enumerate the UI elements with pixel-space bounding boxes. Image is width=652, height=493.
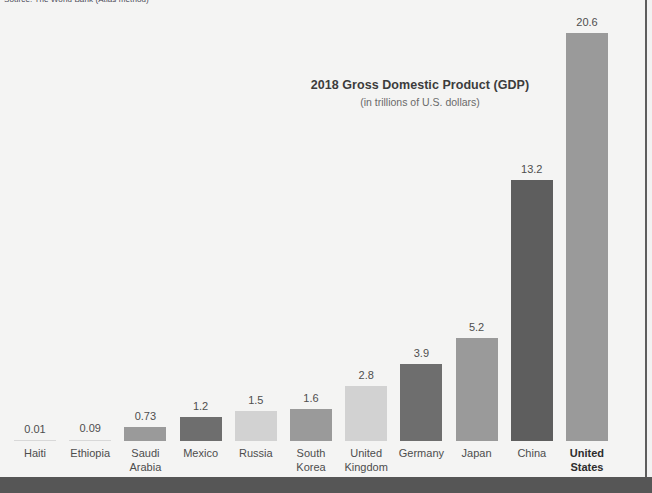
bar-value-label: 1.6	[303, 392, 318, 405]
bar-slot: 2.8	[339, 0, 394, 441]
bar-value-label: 1.5	[248, 394, 263, 407]
bar-value-label: 5.2	[469, 321, 484, 334]
bar-slot: 1.2	[173, 0, 228, 441]
x-axis-label: Mexico	[173, 447, 228, 461]
bar-value-label: 0.01	[24, 423, 45, 436]
x-axis-label: Russia	[228, 447, 283, 461]
bar[interactable]	[290, 409, 332, 441]
bar-value-label: 2.8	[359, 369, 374, 382]
x-axis-label: China	[504, 447, 559, 461]
gdp-infographic: Source: The World Bank (Atlas method) 20…	[0, 0, 652, 493]
bar[interactable]	[14, 440, 56, 441]
bar-value-label: 0.73	[135, 410, 156, 423]
x-axis-label: UnitedKingdom	[339, 447, 394, 474]
bar-value-label: 3.9	[414, 347, 429, 360]
bar-value-label: 13.2	[521, 163, 542, 176]
bar-value-label: 20.6	[576, 16, 597, 29]
bar-slot: 3.9	[394, 0, 449, 441]
bar[interactable]	[180, 417, 222, 441]
x-axis-label: Ethiopia	[63, 447, 118, 461]
bar-slot: 1.5	[228, 0, 283, 441]
bar-slot: 1.6	[283, 0, 338, 441]
bar[interactable]	[511, 180, 553, 441]
x-axis-label: Haiti	[7, 447, 62, 461]
bar[interactable]	[235, 411, 277, 441]
bar-plot-area: 0.010.090.731.21.51.62.83.95.213.220.6	[0, 0, 646, 441]
bar[interactable]	[566, 33, 608, 441]
bar-slot: 13.2	[504, 0, 559, 441]
bar[interactable]	[69, 440, 111, 441]
x-axis-label-area: HaitiEthiopiaSaudiArabiaMexicoRussiaSout…	[0, 447, 646, 477]
right-border-rule	[645, 0, 647, 477]
x-axis-label: SouthKorea	[283, 447, 338, 474]
bar-slot: 0.09	[63, 0, 118, 441]
x-axis-label: Japan	[449, 447, 504, 461]
bar-slot: 0.01	[7, 0, 62, 441]
x-axis-label: UnitedStates	[559, 447, 614, 474]
bar-slot: 0.73	[118, 0, 173, 441]
bar[interactable]	[400, 364, 442, 441]
bar[interactable]	[345, 386, 387, 441]
bar-value-label: 0.09	[79, 422, 100, 435]
bar-slot: 5.2	[449, 0, 504, 441]
bar-slot: 20.6	[559, 0, 614, 441]
bar[interactable]	[124, 427, 166, 441]
x-axis-label: Germany	[394, 447, 449, 461]
bar[interactable]	[456, 338, 498, 441]
bar-value-label: 1.2	[193, 400, 208, 413]
footer-band	[0, 477, 652, 493]
x-axis-label: SaudiArabia	[118, 447, 173, 474]
